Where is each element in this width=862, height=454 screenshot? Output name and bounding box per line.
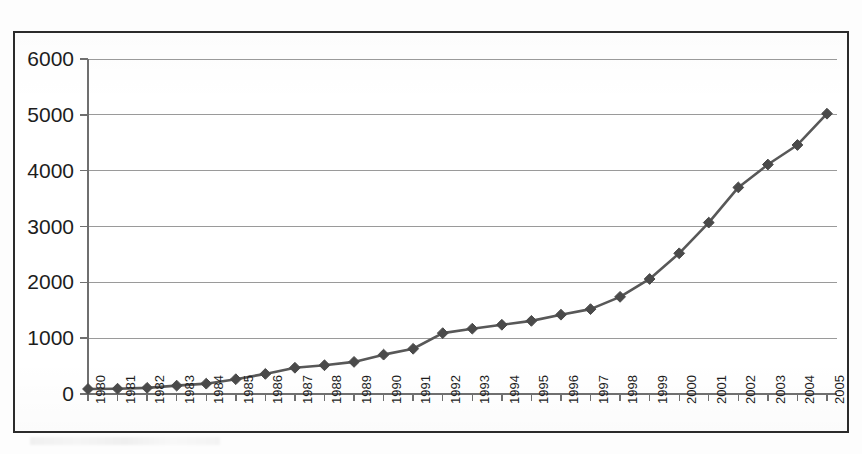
y-axis-label-2000: 2000	[0, 271, 74, 292]
x-axis-label-2004: 2004	[803, 375, 816, 404]
figure-container: 6000500040003000200010000 19801981198219…	[0, 0, 862, 454]
y-axis-label-5000: 5000	[0, 104, 74, 125]
x-axis-label-1994: 1994	[508, 375, 521, 404]
x-axis-label-1982: 1982	[153, 375, 166, 404]
x-axis-label-1999: 1999	[656, 375, 669, 404]
x-axis-label-1985: 1985	[242, 375, 255, 404]
data-point-marker	[112, 383, 123, 394]
x-axis-label-2002: 2002	[744, 375, 757, 404]
x-axis-label-1996: 1996	[567, 375, 580, 404]
data-point-marker	[526, 315, 537, 326]
data-point-marker	[556, 309, 567, 320]
data-point-marker	[378, 349, 389, 360]
x-axis-label-1995: 1995	[537, 375, 550, 404]
data-point-marker	[319, 360, 330, 371]
data-point-marker	[230, 374, 241, 385]
data-point-marker	[496, 319, 507, 330]
scan-artifact	[30, 437, 220, 445]
x-axis-label-1988: 1988	[330, 375, 343, 404]
y-axis-label-0: 0	[0, 383, 74, 404]
x-axis-label-2005: 2005	[833, 375, 846, 404]
x-axis-label-1997: 1997	[597, 375, 610, 404]
x-axis-label-2000: 2000	[685, 375, 698, 404]
x-axis-label-1989: 1989	[360, 375, 373, 404]
x-axis-label-1993: 1993	[478, 375, 491, 404]
x-axis-label-1984: 1984	[212, 375, 225, 404]
x-axis-label-1998: 1998	[626, 375, 639, 404]
chart-frame	[13, 31, 849, 433]
data-point-marker	[467, 323, 478, 334]
data-point-marker	[142, 382, 153, 393]
x-axis-label-1991: 1991	[419, 375, 432, 404]
data-point-marker	[437, 328, 448, 339]
x-axis-label-1981: 1981	[124, 375, 137, 404]
y-tick-marks-group	[80, 59, 88, 394]
data-point-markers-group	[83, 108, 833, 394]
data-point-marker	[171, 380, 182, 391]
data-line-series-1	[88, 114, 827, 389]
x-axis-label-2003: 2003	[774, 375, 787, 404]
data-point-marker	[290, 362, 301, 373]
x-axis-label-2001: 2001	[715, 375, 728, 404]
x-axis-label-1986: 1986	[271, 375, 284, 404]
x-axis-label-1980: 1980	[94, 375, 107, 404]
data-point-marker	[408, 343, 419, 354]
y-axis-label-1000: 1000	[0, 327, 74, 348]
x-axis-label-1992: 1992	[449, 375, 462, 404]
x-axis-label-1990: 1990	[390, 375, 403, 404]
data-point-marker	[349, 356, 360, 367]
line-chart-plot	[15, 33, 847, 431]
y-axis-label-6000: 6000	[0, 48, 74, 69]
x-axis-label-1987: 1987	[301, 375, 314, 404]
x-axis-label-1983: 1983	[183, 375, 196, 404]
data-point-marker	[585, 304, 596, 315]
y-axis-label-4000: 4000	[0, 160, 74, 181]
data-point-marker	[83, 384, 94, 395]
gridlines-group	[88, 59, 837, 338]
y-axis-label-3000: 3000	[0, 216, 74, 237]
